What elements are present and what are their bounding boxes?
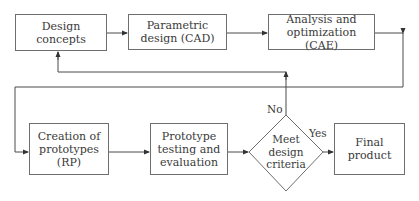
node-design-concepts: Design concepts [15,14,107,51]
node-text: Prototype [158,130,221,143]
node-text: design (CAD) [140,32,214,45]
node-text: product [348,149,392,162]
node-text: Creation of [30,130,108,143]
node-text: Final [348,136,392,149]
node-text: design [256,146,316,159]
edge-label-yes: Yes [309,127,327,139]
node-creation-prototypes: Creation of prototypes (RP) [29,123,109,175]
node-prototype-testing: Prototype testing and evaluation [150,123,228,175]
node-text: Design [36,20,86,33]
node-text: criteria [256,158,316,171]
node-text: evaluation [158,156,221,169]
node-text: concepts [36,33,86,46]
node-text: prototypes (RP) [30,143,108,169]
decision-text: Meet design criteria [256,133,316,171]
node-text: optimization (CAE) [269,26,374,52]
node-analysis-optimization: Analysis and optimization (CAE) [268,14,375,50]
node-text: Parametric [140,19,214,32]
node-final-product: Final product [334,123,405,175]
node-text: testing and [158,143,221,156]
node-text: Meet [256,133,316,146]
node-text: Analysis and [269,13,374,26]
edge-label-no: No [267,103,283,115]
node-parametric-design: Parametric design (CAD) [128,14,227,50]
